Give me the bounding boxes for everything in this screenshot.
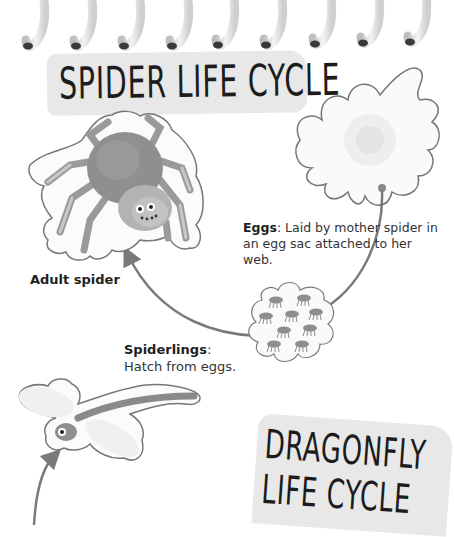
spiderlings-separator: : <box>207 342 211 357</box>
dragonfly-icon <box>15 379 200 464</box>
dragonfly-life-cycle-banner: DRAGONFLY LIFE CYCLE <box>251 413 453 536</box>
adult-spider-caption: Adult spider <box>30 272 120 288</box>
cycle-arrow-to-dragonfly <box>34 456 54 525</box>
spider-icon <box>29 111 203 260</box>
eggs-separator: : <box>277 220 285 235</box>
dragonfly-title-line2: LIFE CYCLE <box>260 469 412 519</box>
spiderlings-caption: Spiderlings: Hatch from eggs. <box>124 341 284 375</box>
spiderlings-description: Hatch from eggs. <box>124 359 236 374</box>
spiderlings-label: Spiderlings <box>124 342 207 357</box>
eggs-label: Eggs <box>243 220 277 235</box>
eggs-caption: Eggs: Laid by mother spider in an egg sa… <box>243 220 443 268</box>
egg-sac-icon <box>296 68 439 205</box>
